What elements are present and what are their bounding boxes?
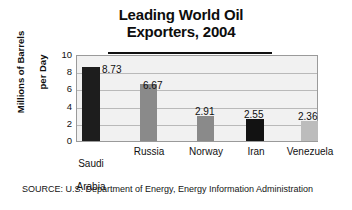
- y-axis-title: Millions of Barrels per Day: [0, 22, 52, 122]
- y-tick-label-0: 0: [52, 136, 72, 146]
- chart-figure: Leading World Oil Exporters, 2004 Millio…: [0, 0, 352, 210]
- x-axis-label-russia: Russia: [118, 146, 180, 158]
- data-label-norway: 2.91: [195, 106, 214, 117]
- x-axis-label-venezuela: Venezuela: [275, 146, 345, 158]
- bar-norway: [197, 116, 214, 141]
- y-tick-label-6: 6: [52, 84, 72, 94]
- bar-iran: [246, 119, 264, 141]
- y-tick-label-2: 2: [52, 119, 72, 129]
- data-label-venezuela: 2.36: [298, 111, 317, 122]
- y-tick-label-8: 8: [52, 67, 72, 77]
- data-label-russia: 6.67: [143, 80, 162, 91]
- data-label-iran: 2.55: [244, 109, 263, 120]
- chart-title-line-2: Exporters, 2004: [56, 23, 306, 40]
- y-axis-title-text: Millions of Barrels per Day: [4, 31, 48, 113]
- source-note: SOURCE: U.S. Department of Energy, Energ…: [22, 184, 313, 195]
- chart-title-line-1: Leading World Oil: [56, 6, 306, 23]
- bar-venezuela: [301, 121, 318, 141]
- y-axis-title-line-2: per Day: [37, 55, 48, 90]
- gridline-6: [77, 90, 317, 91]
- data-label-saudi-arabia: 8.73: [102, 64, 121, 75]
- bar-saudi-arabia: [82, 67, 100, 141]
- y-axis-title-line-1: Millions of Barrels: [15, 31, 26, 113]
- plot-area: 8.73 6.67 2.91 2.55 2.36: [76, 55, 318, 142]
- y-tick-label-4: 4: [52, 102, 72, 112]
- x-axis-label-saudi-line-1: Saudi: [78, 158, 104, 169]
- chart-title: Leading World Oil Exporters, 2004: [56, 6, 306, 40]
- title-underline-rule: [108, 52, 272, 54]
- bar-russia: [140, 84, 157, 141]
- y-tick-label-10: 10: [52, 50, 72, 60]
- y-axis-ticks: 10 8 6 4 2 0: [50, 55, 72, 142]
